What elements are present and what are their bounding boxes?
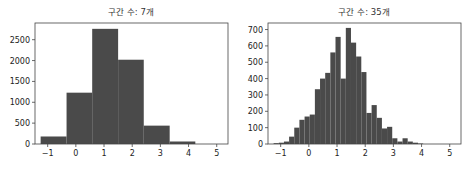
y-tick-label: 0 [25,140,30,149]
x-tick-label: 3 [158,149,163,158]
histogram-bar [403,138,408,144]
histogram-bar [387,127,392,144]
x-tick-label: 0 [306,149,311,158]
histogram-bar [289,137,294,144]
histogram-bar [118,60,144,144]
histogram-bar [346,28,351,144]
histogram-bar [372,105,377,144]
y-tick-label: 2000 [10,57,30,66]
y-axis-ticks: 05001000150020002500 [10,36,35,149]
histogram-bar [294,128,299,144]
x-tick-label: 2 [130,149,135,158]
histogram-bar [351,43,356,144]
x-tick-label: 3 [391,149,396,158]
x-tick-label: 5 [447,149,452,158]
x-tick-label: 2 [363,149,368,158]
y-tick-label: 500 [15,119,30,128]
x-tick-label: 5 [214,149,219,158]
histogram-bar [92,29,118,144]
x-axis-ticks: −1012345 [42,144,219,158]
chart-title: 구간 수: 35개 [338,7,389,17]
histogram-7-bins: 구간 수: 7개 −1012345 05001000150020002500 [10,7,228,158]
x-tick-label: 4 [186,149,191,158]
x-tick-label: 1 [101,149,106,158]
histogram-bar [356,57,361,144]
figure: 구간 수: 7개 −1012345 05001000150020002500 구… [0,0,466,172]
histogram-bar [299,120,304,144]
y-tick-label: 400 [248,75,263,84]
x-tick-label: −1 [42,149,54,158]
bars [274,28,424,144]
y-tick-label: 700 [248,26,263,35]
y-tick-label: 1500 [10,77,30,86]
y-tick-label: 0 [258,140,263,149]
histogram-bar [392,138,397,144]
y-axis-ticks: 0100200300400500600700 [248,26,268,149]
histogram-bar [341,79,346,144]
x-tick-label: −1 [275,149,287,158]
y-tick-label: 300 [248,91,263,100]
y-tick-label: 200 [248,107,263,116]
x-tick-label: 1 [334,149,339,158]
x-tick-label: 0 [73,149,78,158]
x-tick-label: 4 [419,149,424,158]
y-tick-label: 600 [248,42,263,51]
histogram-bar [315,89,320,144]
histogram-bar [361,72,366,144]
y-tick-label: 2500 [10,36,30,45]
chart-title: 구간 수: 7개 [108,7,154,17]
y-tick-label: 500 [248,58,263,67]
histogram-bar [320,79,325,144]
y-tick-label: 100 [248,124,263,133]
histogram-bar [325,73,330,144]
histogram-bar [67,93,93,144]
histogram-bar [41,136,67,144]
histogram-bar [377,118,382,144]
x-axis-ticks: −1012345 [275,144,452,158]
histogram-bar [382,128,387,144]
histogram-bar [305,117,310,144]
y-tick-label: 1000 [10,98,30,107]
histogram-bar [336,37,341,144]
histogram-bar [330,52,335,144]
histogram-bar [310,115,315,144]
histogram-bar [144,126,170,144]
histogram-35-bins: 구간 수: 35개 −1012345 010020030040050060070… [248,7,461,158]
bars [41,29,196,144]
histogram-bar [366,113,371,144]
